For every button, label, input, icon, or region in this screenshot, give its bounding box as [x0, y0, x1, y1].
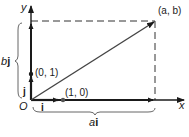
- brace-bj: [15, 23, 22, 98]
- vector-diagram: y x O (a, b) (0, 1) (1, 0) j i bj ai: [0, 0, 189, 137]
- point-0-1: [29, 72, 33, 76]
- point-0-1-label: (0, 1): [35, 67, 58, 78]
- origin-label: O: [19, 100, 28, 112]
- point-1-0: [61, 98, 65, 102]
- vector-ab: [31, 22, 154, 100]
- brace-ai-label: ai: [89, 116, 98, 128]
- point-ab-label: (a, b): [158, 5, 181, 16]
- unit-j-label: j: [22, 86, 26, 97]
- point-1-0-label: (1, 0): [65, 87, 88, 98]
- x-axis-label: x: [178, 99, 185, 111]
- y-axis-label: y: [20, 1, 28, 13]
- unit-i-label: i: [41, 102, 44, 113]
- brace-bj-label: bj: [1, 55, 10, 67]
- brace-ai: [33, 107, 155, 115]
